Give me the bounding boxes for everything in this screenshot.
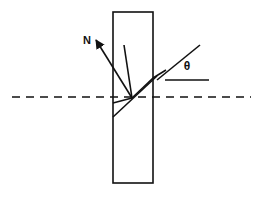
angle-label-theta: θ [184,59,191,73]
optics-ray-diagram: N θ [0,0,262,198]
diagram-canvas: N θ [0,0,262,198]
normal-label-N: N [83,34,91,46]
